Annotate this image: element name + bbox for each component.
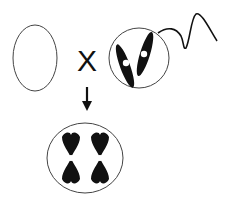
zygote-cell	[47, 123, 123, 193]
sperm-tail	[158, 14, 217, 49]
sperm-cell	[109, 14, 217, 90]
fertilization-diagram: X	[0, 0, 227, 200]
egg-cell	[13, 25, 57, 91]
down-arrow-icon	[82, 87, 92, 111]
chromosome-1	[112, 43, 137, 90]
duplicated-chromosome-1	[62, 133, 80, 184]
duplicated-chromosome-2	[91, 133, 109, 184]
cross-symbol: X	[77, 44, 97, 77]
chromosome-2	[133, 31, 156, 78]
